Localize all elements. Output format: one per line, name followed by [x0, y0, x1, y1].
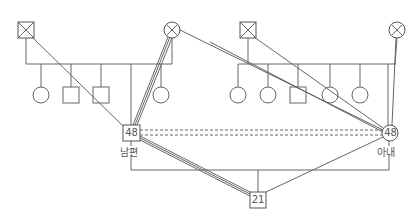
husband-mother	[164, 22, 180, 38]
husband-sister-1	[33, 87, 49, 103]
husband-sister-2	[153, 87, 169, 103]
husband-brother-2	[93, 87, 109, 103]
husband-label: 남편	[120, 147, 138, 159]
husband-father	[18, 22, 34, 38]
wife-brother-1	[290, 87, 306, 103]
wife-age: 48	[382, 127, 399, 139]
wife-sister-1	[230, 87, 246, 103]
wife-sister-2	[260, 87, 276, 103]
wife-label: 아내	[377, 147, 395, 159]
wife-mother	[389, 22, 405, 38]
wife-father	[240, 22, 256, 38]
child-age: 21	[250, 194, 266, 206]
wife-sister-4	[352, 87, 368, 103]
husband-brother-1	[63, 87, 79, 103]
genogram-diagram	[0, 0, 420, 221]
husband-age: 48	[123, 127, 140, 139]
